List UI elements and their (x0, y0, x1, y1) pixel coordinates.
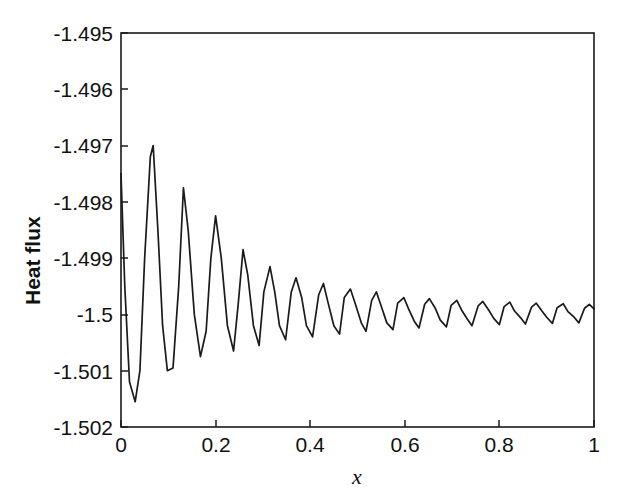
chart-svg: Heat flux -1.495 -1.496 -1.497 -1.498 -1… (0, 0, 625, 495)
y-tick-label: -1.502 (53, 416, 113, 439)
x-tick-label: 0.4 (295, 433, 325, 456)
y-tick-label: -1.496 (53, 78, 113, 101)
x-axis-label: x (351, 464, 362, 489)
x-tick-label: 0.6 (390, 433, 419, 456)
y-tick-label: -1.5 (77, 303, 113, 326)
x-tick-label: 1 (588, 433, 600, 456)
x-tick-label: 0.8 (484, 433, 513, 456)
x-tick-marks (121, 420, 594, 427)
y-tick-label: -1.497 (53, 134, 113, 157)
x-tick-label: 0.2 (201, 433, 230, 456)
heat-flux-curve (121, 146, 594, 402)
y-axis-label: Heat flux (21, 216, 44, 305)
chart-figure: Heat flux -1.495 -1.496 -1.497 -1.498 -1… (0, 0, 625, 495)
y-tick-label: -1.495 (53, 22, 113, 45)
x-tick-label: 0 (115, 433, 127, 456)
y-tick-label: -1.498 (53, 191, 113, 214)
y-tick-label: -1.501 (53, 360, 113, 383)
plot-frame (121, 33, 594, 427)
y-tick-label: -1.499 (53, 247, 113, 270)
